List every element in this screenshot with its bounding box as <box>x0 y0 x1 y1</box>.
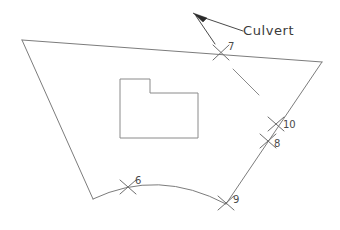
culvert-callout: Culvert <box>193 13 294 44</box>
parcel-bottom-arc <box>93 185 226 204</box>
survey-marker-6[interactable]: 6 <box>120 175 141 194</box>
marker-cross-6 <box>120 180 136 194</box>
marker-label-9: 9 <box>233 194 239 205</box>
marker-label-7: 7 <box>228 41 234 52</box>
marker-cross-9 <box>218 196 234 210</box>
site-plan-drawing: Culvert 6 7 8 9 10 <box>0 0 340 230</box>
marker-cross-7 <box>213 45 229 60</box>
culvert-label: Culvert <box>243 23 294 38</box>
drawing-canvas: Culvert 6 7 8 9 10 <box>0 0 340 230</box>
building-footprint <box>120 79 198 138</box>
building-outline <box>120 79 198 138</box>
marker-label-6: 6 <box>135 175 141 186</box>
parcel-right-edge <box>226 62 322 204</box>
survey-marker-8[interactable]: 8 <box>260 134 280 149</box>
parcel-top-edge <box>22 40 322 62</box>
survey-marker-7[interactable]: 7 <box>213 41 234 60</box>
survey-marker-10[interactable]: 10 <box>268 117 296 131</box>
marker-cross-10 <box>268 117 284 131</box>
marker-label-8: 8 <box>274 138 280 149</box>
arrow-up-left-icon <box>193 13 207 22</box>
marker-label-10: 10 <box>283 119 296 130</box>
culvert-feature-tick <box>233 69 259 95</box>
parcel-left-edge <box>22 40 93 199</box>
parcel-boundary <box>22 40 322 204</box>
